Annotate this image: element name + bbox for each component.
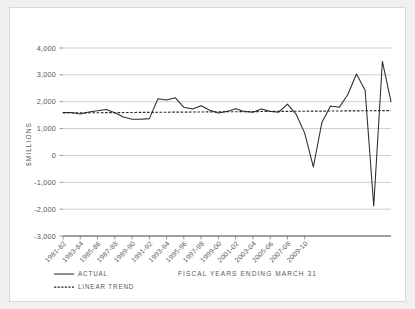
y-axis-tick-label: 1,000 — [37, 124, 56, 133]
legend-label-linear-trend: LINEAR TREND — [78, 283, 134, 290]
x-axis-title: FISCAL YEARS ENDING MARCH 31 — [178, 270, 317, 277]
gridline-group — [63, 48, 391, 236]
actual-series — [63, 61, 391, 205]
y-axis-tick-label: -2,000 — [34, 205, 56, 214]
x-axis-tick-group: 1981-821983-841985-861987-881989-901991-… — [43, 236, 309, 264]
y-axis-tick-label: 0 — [52, 151, 56, 160]
y-axis-tick-label: -3,000 — [34, 232, 56, 241]
y-axis-tick-label: -1,000 — [34, 178, 56, 187]
y-axis-tick-label: 3,000 — [37, 70, 56, 79]
legend: ACTUAL LINEAR TREND — [54, 270, 134, 290]
y-axis-tick-label: 2,000 — [37, 97, 56, 106]
chart-figure: 4,0003,0002,0001,0000-1,000-2,000-3,000 … — [0, 0, 415, 309]
legend-label-actual: ACTUAL — [78, 270, 108, 277]
y-axis-tick-group: 4,0003,0002,0001,0000-1,000-2,000-3,000 — [34, 44, 63, 241]
y-axis-tick-label: 4,000 — [37, 44, 56, 53]
chart-plate: 4,0003,0002,0001,0000-1,000-2,000-3,000 … — [9, 7, 406, 302]
line-chart: 4,0003,0002,0001,0000-1,000-2,000-3,000 … — [10, 8, 407, 301]
y-axis-title: $MILLIONS — [25, 122, 32, 166]
